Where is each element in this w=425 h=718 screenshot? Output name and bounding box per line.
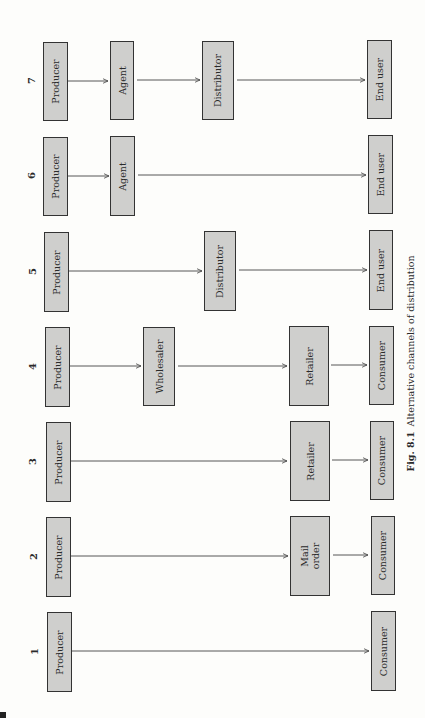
channel-number-7: 7 [24,73,38,87]
node-label: Agent [117,162,128,191]
figure-title: Alternative channels of distribution [405,255,416,426]
node-label: End user [376,248,387,291]
node-label: Producer [50,59,61,103]
node-3-producer: Producer [46,422,71,502]
figure-number: Fig. 8.1 [405,431,416,471]
node-2-producer: Producer [46,517,71,597]
node-7-producer: Producer [43,42,68,121]
channel-number-4: 4 [25,359,39,373]
node-6-agent: Agent [110,136,135,216]
node-6-end-user: End user [368,135,393,214]
page-corner-mark [0,712,6,718]
channel-number-2: 2 [26,549,40,563]
node-5-distributor: Distributor [204,231,236,311]
node-7-agent: Agent [110,41,134,120]
node-1-producer: Producer [47,612,72,692]
node-label: Producer [52,345,63,389]
node-7-distributor: Distributor [202,41,234,120]
node-2-mail-order: Mail order [290,516,330,596]
node-label: Distributor [215,244,226,297]
node-label: Wholesaler [154,339,165,393]
node-4-retailer: Retailer [289,326,329,406]
node-label: End user [374,58,385,101]
node-label: Agent [117,66,128,95]
node-label: Producer [53,535,64,579]
node-5-producer: Producer [44,232,69,312]
node-label: Consumer [376,341,387,390]
figure-caption: Fig. 8.1Alternative channels of distribu… [403,258,417,468]
node-label: Producer [53,440,64,484]
node-6-producer: Producer [43,137,68,216]
node-3-retailer: Retailer [290,421,330,501]
node-label: End user [375,153,386,196]
node-3-consumer: Consumer [370,421,394,500]
node-label: Producer [51,250,62,294]
node-4-consumer: Consumer [369,326,394,405]
node-1-consumer: Consumer [371,611,396,691]
node-4-producer: Producer [45,327,70,407]
node-label: Retailer [304,347,315,386]
channel-number-1: 1 [27,644,41,658]
channel-number-5: 5 [25,264,39,278]
node-2-consumer: Consumer [371,516,395,595]
node-4-wholesaler: Wholesaler [143,327,175,406]
channel-number-6: 6 [24,168,38,182]
node-label: Retailer [305,442,316,481]
node-7-end-user: End user [367,40,392,119]
node-label: Consumer [377,436,388,485]
channel-number-3: 3 [25,454,39,468]
node-label: Producer [54,630,65,674]
node-label: Producer [50,154,61,198]
node-label: Consumer [378,531,389,580]
node-label: Mail order [299,541,321,571]
node-label: Consumer [378,626,389,675]
node-5-end-user: End user [369,230,393,310]
node-label: Distributor [213,54,224,107]
